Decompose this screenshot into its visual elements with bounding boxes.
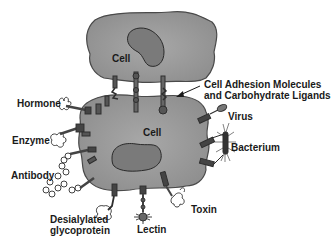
diagram-canvas bbox=[0, 0, 333, 244]
cam-label-line2: and Carbohydrate Ligands bbox=[204, 90, 331, 101]
hormone-label: Hormone bbox=[17, 98, 61, 109]
bottom-cell-label: Cell bbox=[143, 127, 161, 138]
enzyme-label: Enzyme bbox=[12, 135, 50, 146]
lectin-molecule bbox=[134, 186, 152, 224]
desialylated-glycoprotein-label: Desialylated glycoprotein bbox=[50, 214, 110, 236]
antibody-label: Antibody bbox=[11, 170, 54, 181]
top-cell-label: Cell bbox=[112, 53, 130, 64]
cam-label-line1: Cell Adhesion Molecules bbox=[204, 79, 321, 90]
lectin-label: Lectin bbox=[137, 224, 166, 235]
virus-label: Virus bbox=[228, 111, 253, 122]
cell-surface-interactions-diagram: Cell Cell Cell Adhesion Molecules and Ca… bbox=[0, 0, 333, 244]
bottom-cell-nucleus bbox=[112, 144, 161, 172]
toxin-label: Toxin bbox=[191, 204, 217, 215]
cam-arrow bbox=[176, 86, 200, 97]
bacterium-label: Bacterium bbox=[231, 142, 280, 153]
